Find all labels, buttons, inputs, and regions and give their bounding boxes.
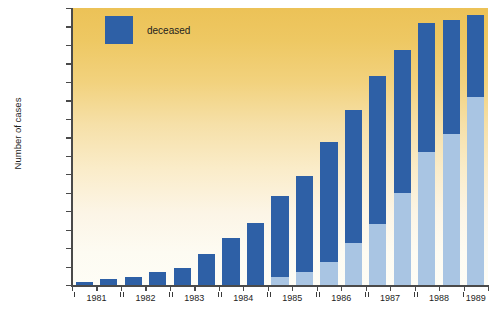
legend-swatch-deceased <box>105 16 133 44</box>
x-axis-year-group: 1981 <box>74 292 119 308</box>
bar-segment-deceased <box>271 196 288 276</box>
bar <box>394 50 411 285</box>
y-axis-tick-mark <box>66 45 73 46</box>
y-axis-tick-mark <box>66 156 73 157</box>
bar <box>149 272 166 285</box>
y-axis-tick-mark <box>66 211 73 212</box>
bar <box>320 142 337 285</box>
legend-label-deceased: deceased <box>147 25 190 36</box>
x-axis-tick-mark <box>390 286 391 291</box>
y-axis-tick-mark <box>66 137 73 138</box>
x-axis-tick-mark <box>96 286 97 291</box>
y-axis-tick-mark <box>66 82 73 83</box>
x-axis-year-label: 1982 <box>123 293 168 303</box>
bar-segment-deceased <box>247 223 264 285</box>
bar-segment-deceased <box>125 277 142 285</box>
x-axis-year-label: 1983 <box>172 293 217 303</box>
bar-segment-living <box>296 272 313 285</box>
chart-container: 01,0002,0003,0004,0005,0006,0007,0008,00… <box>0 0 498 321</box>
x-axis-tick-mark <box>145 286 146 291</box>
y-axis-line <box>71 8 73 286</box>
x-axis-year-label: 1986 <box>319 293 364 303</box>
x-axis-year-label: 1985 <box>270 293 315 303</box>
x-axis-tick-mark <box>170 286 171 291</box>
bar-segment-deceased <box>394 50 411 192</box>
bar-segment-living <box>418 152 435 285</box>
bar <box>418 23 435 285</box>
bar <box>443 20 460 285</box>
y-axis-tick-mark <box>66 230 73 231</box>
x-axis-year-label: 1984 <box>221 293 266 303</box>
x-axis-line <box>71 285 489 287</box>
x-axis-tick-mark <box>366 286 367 291</box>
x-axis-year-label: 1989 <box>466 293 486 303</box>
bar-segment-deceased <box>443 20 460 134</box>
bar-segment-deceased <box>418 23 435 152</box>
bar-segment-deceased <box>174 268 191 285</box>
y-axis-tick-mark <box>66 248 73 249</box>
bar-segment-deceased <box>320 142 337 262</box>
y-axis-tick-mark <box>66 267 73 268</box>
bar-segment-living <box>271 277 288 285</box>
x-axis-tick-mark <box>317 286 318 291</box>
x-axis-year-label: 1988 <box>417 293 462 303</box>
x-axis-tick-mark <box>341 286 342 291</box>
bar <box>271 196 288 285</box>
bar <box>467 15 484 285</box>
bar <box>125 277 142 285</box>
bar-segment-deceased <box>296 176 313 272</box>
bar-segment-deceased <box>345 110 362 243</box>
bar <box>345 110 362 285</box>
bar <box>369 76 386 285</box>
y-axis-tick-mark <box>66 63 73 64</box>
bar-segment-living <box>345 243 362 285</box>
x-axis-year-group: 1984 <box>221 292 266 308</box>
legend: deceased <box>105 16 190 44</box>
x-axis-year-group: 1982 <box>123 292 168 308</box>
bar <box>222 238 239 285</box>
x-axis-tick-mark <box>292 286 293 291</box>
bar-segment-deceased <box>222 238 239 285</box>
bar-segment-living <box>467 97 484 285</box>
x-axis-year-group: 1987 <box>368 292 413 308</box>
x-axis-year-group: 1988 <box>417 292 462 308</box>
bar <box>247 223 264 285</box>
bar-segment-deceased <box>198 254 215 285</box>
x-axis-year-group: 1985 <box>270 292 315 308</box>
x-axis-tick-mark <box>243 286 244 291</box>
x-axis-tick-mark <box>72 286 73 291</box>
x-axis-tick-mark <box>439 286 440 291</box>
bar <box>174 268 191 285</box>
bar-segment-deceased <box>149 272 166 285</box>
plot-area <box>72 8 488 285</box>
bar-segment-living <box>320 262 337 285</box>
x-axis-year-group: 1983 <box>172 292 217 308</box>
bar-segment-deceased <box>467 15 484 96</box>
y-axis-title: Number of cases <box>12 79 23 189</box>
bar <box>198 254 215 285</box>
x-axis-year-label: 1987 <box>368 293 413 303</box>
bar-segment-living <box>443 134 460 285</box>
bar <box>296 176 313 285</box>
x-axis-year-group: 1986 <box>319 292 364 308</box>
x-axis-tick-mark <box>415 286 416 291</box>
x-axis-year-label: 1981 <box>74 293 119 303</box>
y-axis-tick-mark <box>66 100 73 101</box>
x-axis-tick-mark <box>121 286 122 291</box>
x-axis-year-group: 1989 <box>466 292 486 308</box>
x-axis-tick-mark <box>464 286 465 291</box>
y-axis-tick-mark <box>66 193 73 194</box>
x-axis-tick-mark <box>194 286 195 291</box>
x-axis-tick-mark <box>219 286 220 291</box>
y-axis-tick-mark <box>66 26 73 27</box>
y-axis-tick-mark <box>66 8 73 9</box>
bar-segment-living <box>394 193 411 285</box>
y-axis-tick-mark <box>66 119 73 120</box>
x-axis-tick-mark <box>488 286 489 291</box>
y-axis-tick-mark <box>66 174 73 175</box>
bar-segment-deceased <box>369 76 386 224</box>
bar-segment-living <box>369 224 386 285</box>
x-axis-tick-mark <box>268 286 269 291</box>
